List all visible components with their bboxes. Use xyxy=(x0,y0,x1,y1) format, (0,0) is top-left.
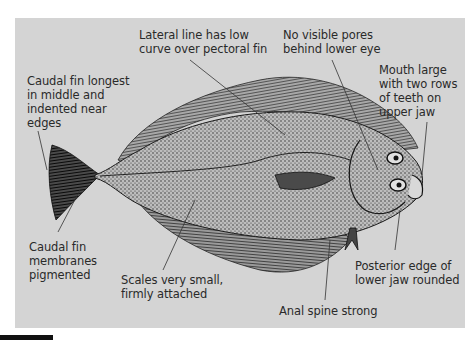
label-mouth: Mouth large with two rows of teeth on up… xyxy=(379,63,457,119)
label-caudal-membranes: Caudal fin membranes pigmented xyxy=(29,240,97,282)
label-caudal-shape: Caudal fin longest in middle and indente… xyxy=(27,74,129,130)
label-anal-spine: Anal spine strong xyxy=(279,304,377,318)
black-bar xyxy=(0,335,53,340)
caudal-fin xyxy=(49,145,100,220)
label-jaw-edge: Posterior edge of lower jaw rounded xyxy=(355,259,459,287)
label-lateral-line: Lateral line has low curve over pectoral… xyxy=(139,28,267,56)
label-scales: Scales very small, firmly attached xyxy=(121,273,223,301)
label-pores: No visible pores behind lower eye xyxy=(283,28,381,56)
